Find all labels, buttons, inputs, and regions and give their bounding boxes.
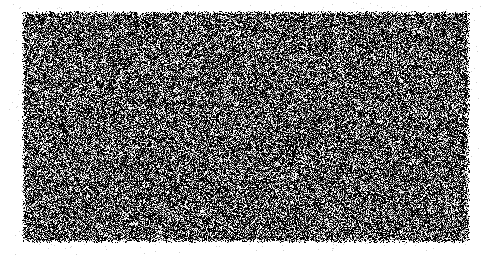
screenshot-root: Full-bleed rectangular field of high-fre… [0,0,492,256]
noise-field [22,11,470,243]
